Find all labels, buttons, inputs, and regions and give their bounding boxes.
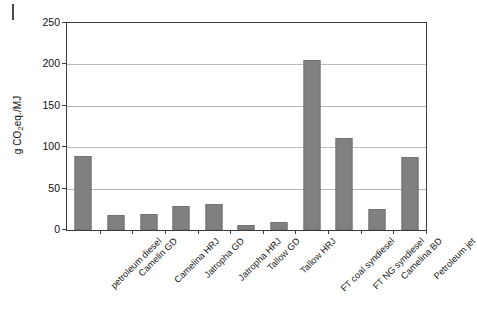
bar-slot (198, 23, 231, 230)
bar[interactable] (271, 222, 288, 230)
bar[interactable] (107, 215, 124, 230)
y-axis-tick-label: 100 (14, 140, 60, 152)
y-axis-tick-label: 150 (14, 99, 60, 111)
x-axis-tick-mark (295, 230, 296, 234)
bar-slot (328, 23, 361, 230)
bar[interactable] (140, 214, 157, 230)
bar[interactable] (75, 156, 92, 230)
x-axis-tick-mark (230, 230, 231, 234)
y-axis-tick-mark (62, 105, 66, 106)
bar-slot (230, 23, 263, 230)
bar[interactable] (303, 60, 320, 230)
bar-slot (165, 23, 198, 230)
y-axis-tick-mark (62, 22, 66, 23)
x-axis-tick-mark (132, 230, 133, 234)
y-axis-tick-label: 50 (14, 182, 60, 194)
y-axis-title-subscript: 2 (16, 126, 25, 130)
bar-slot (67, 23, 100, 230)
x-axis-tick-mark (393, 230, 394, 234)
bar-slot (295, 23, 328, 230)
bar-series (67, 23, 426, 230)
bar-slot (132, 23, 165, 230)
x-axis-tick-mark (198, 230, 199, 234)
y-axis-title: g CO2eq./MJ (12, 60, 28, 190)
y-axis-tick-mark (62, 63, 66, 64)
plot-area (66, 22, 427, 231)
x-axis-tick-mark (328, 230, 329, 234)
x-axis-category-label: Tallow HRJ (299, 236, 339, 276)
bar[interactable] (238, 225, 255, 230)
x-axis-category-label: FT coal syndiesel (339, 236, 397, 294)
bar[interactable] (369, 209, 386, 230)
y-axis-tick-label: 250 (14, 16, 60, 28)
bar[interactable] (336, 138, 353, 230)
x-axis-tick-mark (100, 230, 101, 234)
x-axis-tick-mark (361, 230, 362, 234)
x-axis-tick-mark (426, 230, 427, 234)
bar-slot (393, 23, 426, 230)
x-axis-tick-mark (263, 230, 264, 234)
y-axis-tick-mark (62, 229, 66, 230)
x-axis-tick-mark (165, 230, 166, 234)
y-axis-tick-mark (62, 188, 66, 189)
y-axis-tick-mark (62, 146, 66, 147)
y-axis-tick-label: 200 (14, 57, 60, 69)
bar[interactable] (173, 206, 190, 230)
y-axis-tick-label: 0 (14, 223, 60, 235)
bar-slot (263, 23, 296, 230)
bar-slot (100, 23, 133, 230)
bar-slot (361, 23, 394, 230)
bar[interactable] (401, 157, 418, 230)
bar[interactable] (205, 204, 222, 230)
